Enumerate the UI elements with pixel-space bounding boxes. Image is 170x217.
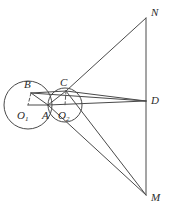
segment-CN xyxy=(66,18,146,91)
point-label-O1-base: O xyxy=(17,109,25,121)
geometry-figure: N D M B C A O1 O2 xyxy=(0,0,170,217)
segment-AD xyxy=(48,101,146,105)
segment-CO2-dashed xyxy=(65,91,66,105)
point-label-M: M xyxy=(151,192,160,203)
segment-AB xyxy=(31,93,48,105)
point-label-B: B xyxy=(24,79,31,90)
segment-CM xyxy=(66,91,146,195)
point-label-C: C xyxy=(60,77,67,88)
segment-BO1-dashed xyxy=(28,93,31,105)
point-label-O2-base: O xyxy=(58,109,66,121)
point-label-D: D xyxy=(151,95,159,106)
point-label-O1-subscript: 1 xyxy=(25,115,29,123)
geometry-canvas xyxy=(0,0,170,217)
point-label-O2-subscript: 2 xyxy=(66,115,70,123)
point-label-O1: O1 xyxy=(17,110,28,121)
point-label-O2: O2 xyxy=(58,110,69,121)
solid-line-group xyxy=(28,18,146,195)
point-label-A: A xyxy=(42,110,49,121)
point-label-N: N xyxy=(151,7,158,18)
